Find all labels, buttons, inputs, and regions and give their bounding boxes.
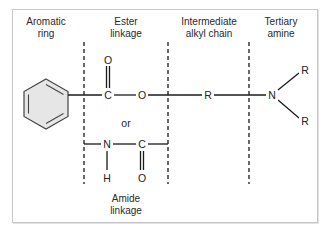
- connector-or: or: [116, 118, 136, 129]
- label-intermediate-alkyl-chain: Intermediate alkyl chain: [172, 16, 246, 40]
- atom-amine-r-bottom: R: [299, 116, 311, 127]
- atom-amine-nitrogen: N: [266, 90, 278, 101]
- atom-ester-carbon: C: [102, 90, 114, 101]
- atom-amide-nitrogen: N: [101, 139, 113, 150]
- atom-ester-carbonyl-oxygen: O: [102, 55, 114, 66]
- label-amide-linkage: Amide linkage: [98, 193, 154, 217]
- label-tertiary-amine: Tertiary amine: [252, 16, 310, 40]
- atom-amide-hydrogen: H: [101, 173, 113, 184]
- atom-amide-carbonyl-oxygen: O: [136, 173, 148, 184]
- atom-amide-carbon: C: [136, 139, 148, 150]
- atom-ester-oxygen: O: [136, 90, 148, 101]
- benzene-ring-icon: [24, 79, 68, 129]
- atom-chain-r: R: [202, 90, 214, 101]
- label-ester-linkage: Ester linkage: [98, 16, 154, 40]
- label-aromatic-ring: Aromatic ring: [14, 16, 78, 40]
- atom-amine-r-top: R: [299, 65, 311, 76]
